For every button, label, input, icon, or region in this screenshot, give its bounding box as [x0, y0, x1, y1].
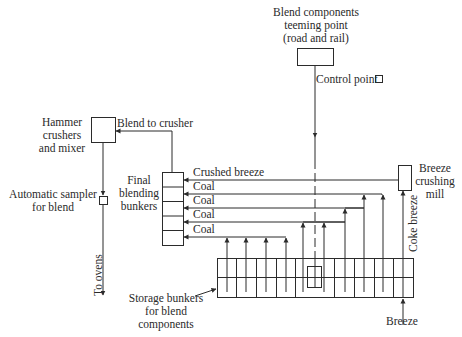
sampler-box — [100, 197, 108, 205]
teeming-point-box — [298, 49, 334, 66]
coal-label-1: Coal — [193, 180, 215, 193]
blend-to-crusher-label: Blend to crusher — [117, 117, 193, 130]
sampler-label: Automatic sampler for blend — [8, 188, 98, 214]
coke-breeze-label: Coke breeze — [407, 195, 420, 252]
blending-bunkers — [163, 173, 184, 246]
breeze-label: Breeze — [386, 315, 418, 328]
final-blending-label: Final blending bunkers — [117, 174, 161, 213]
to-ovens-label: To ovens — [92, 254, 105, 296]
hammer-crushers-label: Hammer crushers and mixer — [34, 116, 90, 155]
teeming-point-label: Blend components teeming point (road and… — [268, 6, 364, 45]
storage-bunkers-label: Storage bunkers for blend components — [126, 292, 206, 331]
coal-label-3: Coal — [193, 208, 215, 221]
coal-label-2: Coal — [193, 194, 215, 207]
hammer-crushers-box — [92, 118, 116, 143]
control-point-label: Control point — [316, 73, 378, 86]
coal-label-4: Coal — [193, 223, 215, 236]
crushed-breeze-label: Crushed breeze — [193, 166, 264, 179]
